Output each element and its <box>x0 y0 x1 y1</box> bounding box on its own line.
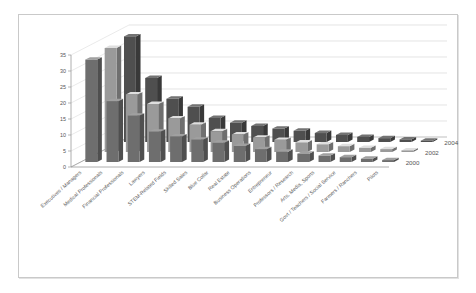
y-tick-label: 10 <box>60 132 66 138</box>
bar <box>340 155 357 162</box>
bar <box>359 145 376 152</box>
bar-side-face <box>182 134 187 162</box>
three-d-bar-chart: 05101520253035Executives / ManagersMedic… <box>19 15 459 279</box>
bar-front-face <box>400 139 412 142</box>
y-tick-label: 20 <box>60 100 66 106</box>
y-tick-label: 15 <box>60 116 66 122</box>
bar-front-face <box>317 144 329 152</box>
bar-front-face <box>297 154 309 162</box>
bar-side-face <box>140 113 145 162</box>
category-labels: Executives / ManagersMedical Professiona… <box>39 169 379 223</box>
y-tick-label: 35 <box>60 52 66 58</box>
bar-front-face <box>85 60 97 162</box>
bar-front-face <box>401 150 413 152</box>
bar-front-face <box>295 142 307 152</box>
category-label: Business Operations <box>212 169 252 206</box>
bar <box>170 134 187 162</box>
bar <box>382 158 399 162</box>
y-tick-label: 5 <box>63 148 66 154</box>
bar-group <box>85 34 437 162</box>
bar-front-face <box>382 160 394 162</box>
category-label: STEM-Related Fields <box>126 169 167 207</box>
chart-plot-area: 05101520253035Executives / ManagersMedic… <box>19 15 459 279</box>
bar-front-face <box>276 152 288 162</box>
bar-front-face <box>128 116 140 162</box>
bar-side-face <box>161 129 166 162</box>
legend-label: 2002 <box>425 149 439 156</box>
bar-front-face <box>338 146 350 152</box>
bar <box>401 148 418 152</box>
bar <box>357 134 374 142</box>
bar <box>295 140 312 152</box>
bar-front-face <box>319 156 331 162</box>
bar <box>85 57 102 162</box>
bar-side-face <box>267 147 272 162</box>
bar-front-face <box>255 149 267 162</box>
bar <box>317 142 334 152</box>
bar <box>400 137 417 142</box>
bar <box>234 144 251 162</box>
chart-frame: 05101520253035Executives / ManagersMedic… <box>18 14 458 278</box>
bar <box>380 147 397 152</box>
bar-side-face <box>118 99 123 162</box>
bar-front-face <box>336 135 348 142</box>
bar-front-face <box>340 157 352 162</box>
y-tick-label: 25 <box>60 84 66 90</box>
bar-front-face <box>149 132 161 162</box>
bar-front-face <box>421 141 433 142</box>
bar <box>276 149 293 162</box>
bar <box>107 99 124 162</box>
legend: 200420022000 <box>406 139 459 166</box>
bar-side-face <box>246 144 251 162</box>
bar-front-face <box>170 136 182 162</box>
bar-front-face <box>315 133 327 142</box>
bar-side-face <box>97 57 102 162</box>
bar-front-face <box>359 148 371 152</box>
bar-side-face <box>224 140 229 162</box>
bar <box>294 128 311 142</box>
bar-front-face <box>380 149 392 152</box>
bar <box>315 131 332 142</box>
bar-front-face <box>213 143 225 162</box>
category-label: Lawyers <box>127 169 146 187</box>
bar <box>319 153 336 162</box>
bar <box>361 156 378 162</box>
bar-front-face <box>361 159 373 162</box>
category-label: Medical Professionals <box>62 169 104 207</box>
y-tick-label: 30 <box>60 68 66 74</box>
bar-front-face <box>234 146 246 162</box>
category-label: Financial Professionals <box>81 169 125 209</box>
bar <box>336 133 353 142</box>
bar-side-face <box>203 137 208 162</box>
legend-label: 2000 <box>406 159 420 166</box>
category-label: Farmers / Ranchers <box>320 169 358 204</box>
legend-label: 2004 <box>444 139 458 146</box>
bar <box>421 138 438 142</box>
bar <box>213 140 230 162</box>
bar-front-face <box>378 138 390 142</box>
bar <box>149 129 166 162</box>
bar <box>255 147 272 162</box>
bar-front-face <box>107 101 119 162</box>
bar <box>297 151 314 162</box>
bar <box>338 144 355 152</box>
y-tick-label: 0 <box>63 164 66 170</box>
bar <box>128 113 145 162</box>
bar-front-face <box>191 140 203 162</box>
bar-front-face <box>357 137 369 142</box>
category-label: Pilots <box>366 169 380 182</box>
bar <box>191 137 208 162</box>
category-label: Professors / Research <box>252 169 294 208</box>
